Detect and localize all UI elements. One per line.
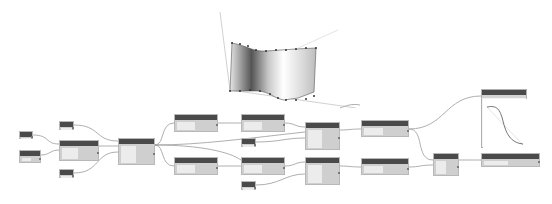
node-header[interactable] bbox=[306, 158, 339, 163]
output-port[interactable] bbox=[254, 144, 256, 146]
output-port[interactable] bbox=[31, 136, 33, 138]
output-port[interactable] bbox=[407, 130, 409, 132]
output-port[interactable] bbox=[216, 167, 218, 169]
node-input-field[interactable] bbox=[22, 158, 31, 161]
node-header[interactable] bbox=[434, 154, 458, 159]
graph-node[interactable] bbox=[433, 153, 459, 176]
graph-node[interactable] bbox=[361, 158, 409, 175]
output-port[interactable] bbox=[283, 167, 285, 169]
number-input-field[interactable] bbox=[243, 145, 254, 147]
output-port[interactable] bbox=[538, 161, 540, 163]
output-port[interactable] bbox=[39, 158, 41, 160]
node-input-field[interactable] bbox=[62, 148, 78, 159]
output-port[interactable] bbox=[338, 172, 340, 174]
graph-node[interactable] bbox=[59, 121, 74, 130]
graph-node[interactable] bbox=[241, 181, 256, 190]
graph-node[interactable] bbox=[241, 138, 256, 147]
graph-node[interactable] bbox=[59, 169, 74, 178]
graph-node[interactable] bbox=[59, 140, 99, 161]
output-port[interactable] bbox=[216, 124, 218, 126]
curve-preview-icon bbox=[483, 99, 527, 148]
node-header[interactable] bbox=[175, 158, 217, 163]
node-header[interactable] bbox=[482, 154, 539, 159]
node-input-field[interactable] bbox=[364, 166, 383, 173]
graph-node[interactable] bbox=[481, 153, 540, 167]
output-port[interactable] bbox=[338, 137, 340, 139]
output-port[interactable] bbox=[153, 153, 155, 155]
watch-preview-node[interactable] bbox=[481, 89, 527, 148]
output-port[interactable] bbox=[457, 166, 459, 168]
node-input-field[interactable] bbox=[244, 122, 262, 130]
output-port[interactable] bbox=[72, 175, 74, 177]
number-input-field[interactable] bbox=[61, 176, 72, 178]
graph-node[interactable] bbox=[241, 114, 285, 132]
node-output-bar bbox=[482, 95, 526, 98]
output-port[interactable] bbox=[283, 124, 285, 126]
graph-node[interactable] bbox=[361, 120, 409, 137]
graph-node[interactable] bbox=[241, 157, 285, 175]
graph-node[interactable] bbox=[19, 150, 41, 163]
output-port[interactable] bbox=[407, 168, 409, 170]
graph-node[interactable] bbox=[305, 157, 340, 185]
node-header[interactable] bbox=[119, 139, 154, 144]
node-header[interactable] bbox=[362, 159, 408, 164]
node-header[interactable] bbox=[175, 115, 217, 120]
node-input-field[interactable] bbox=[177, 122, 195, 130]
graph-node[interactable] bbox=[174, 114, 218, 132]
graph-node[interactable] bbox=[174, 157, 218, 175]
3d-viewport-preview[interactable] bbox=[218, 8, 358, 108]
node-input-field[interactable] bbox=[484, 161, 508, 165]
node-input-field[interactable] bbox=[244, 165, 262, 173]
node-input-field[interactable] bbox=[121, 146, 136, 163]
node-input-field[interactable] bbox=[436, 161, 446, 174]
node-header[interactable] bbox=[242, 158, 284, 163]
graph-node[interactable] bbox=[118, 138, 155, 165]
graph-node[interactable] bbox=[19, 131, 33, 139]
node-header[interactable] bbox=[242, 115, 284, 120]
node-header[interactable] bbox=[306, 123, 339, 128]
node-input-field[interactable] bbox=[308, 165, 322, 183]
node-header[interactable] bbox=[362, 121, 408, 126]
output-port[interactable] bbox=[254, 187, 256, 189]
node-input-field[interactable] bbox=[364, 128, 383, 135]
number-input-field[interactable] bbox=[243, 188, 254, 190]
node-input-field[interactable] bbox=[177, 165, 195, 173]
output-port[interactable] bbox=[72, 127, 74, 129]
node-header[interactable] bbox=[60, 141, 98, 146]
number-input-field[interactable] bbox=[21, 138, 31, 139]
graph-node[interactable] bbox=[305, 122, 340, 150]
number-input-field[interactable] bbox=[61, 128, 72, 130]
node-header[interactable] bbox=[20, 151, 40, 156]
node-input-field[interactable] bbox=[308, 130, 322, 148]
output-port[interactable] bbox=[97, 152, 99, 154]
